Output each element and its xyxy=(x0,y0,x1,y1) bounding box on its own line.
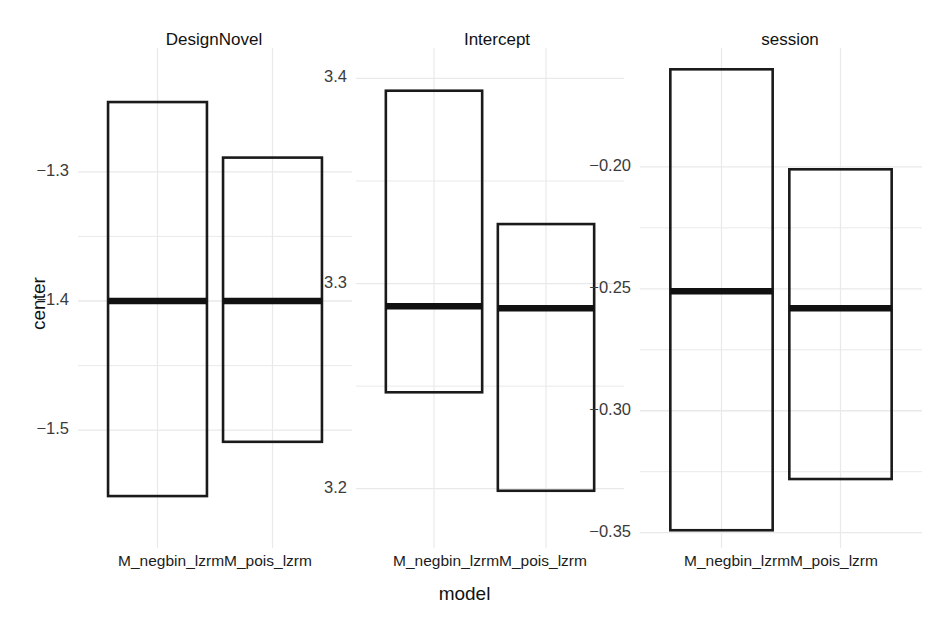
x-axis-tick-label: M_negbin_lzrm xyxy=(118,552,224,570)
x-axis-title: model xyxy=(0,583,929,605)
x-axis-tick-label: M_negbin_lzrm xyxy=(393,552,499,570)
x-axis-tick-row: M_negbin_lzrmM_pois_lzrm xyxy=(74,552,356,570)
panel-title: DesignNovel xyxy=(64,30,364,50)
panel-title: session xyxy=(640,30,929,50)
x-axis-tick-label: M_pois_lzrm xyxy=(790,552,878,570)
y-axis-tick-label: −1.5 xyxy=(0,419,78,438)
x-axis-tick-label: M_pois_lzrm xyxy=(499,552,587,570)
x-axis-tick-row: M_negbin_lzrmM_pois_lzrm xyxy=(636,552,926,570)
y-axis-tick-label: −0.20 xyxy=(554,156,640,175)
panel-title: Intercept xyxy=(347,30,647,50)
facet-boxplot-chart: DesignNovel−1.3−1.4−1.5M_negbin_lzrmM_po… xyxy=(0,0,929,629)
y-axis-tick-label: −0.25 xyxy=(554,278,640,297)
panel-gridlines xyxy=(356,48,624,548)
y-axis-tick-label: −0.30 xyxy=(554,400,640,419)
y-axis-title: center xyxy=(28,277,50,330)
y-axis-tick-label: 3.3 xyxy=(270,273,356,292)
y-axis-tick-label: 3.2 xyxy=(270,478,356,497)
x-axis-tick-row: M_negbin_lzrmM_pois_lzrm xyxy=(352,552,628,570)
chart-canvas xyxy=(0,0,929,629)
y-axis-tick-label: 3.4 xyxy=(270,67,356,86)
x-axis-tick-label: M_pois_lzrm xyxy=(224,552,312,570)
y-axis-tick-label: −0.35 xyxy=(554,522,640,541)
y-axis-tick-label: −1.3 xyxy=(0,161,78,180)
panel-gridlines xyxy=(640,48,922,548)
x-axis-tick-label: M_negbin_lzrm xyxy=(684,552,790,570)
